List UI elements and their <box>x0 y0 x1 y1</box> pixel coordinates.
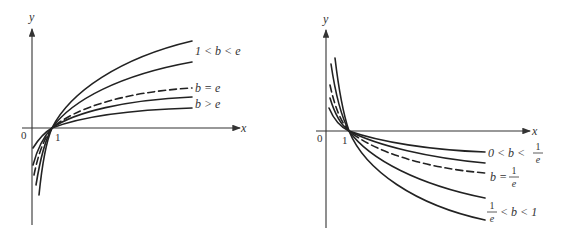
svg-text:1: 1 <box>490 200 495 211</box>
right-label-b-eq-1-over-e: b = 1 e <box>490 165 519 189</box>
svg-text:0 < b <: 0 < b < <box>488 146 525 160</box>
svg-text:1: 1 <box>512 165 517 176</box>
left-x-label: x <box>240 121 247 135</box>
left-origin-label: 0 <box>21 129 27 141</box>
right-label-1-over-e-lt-b-lt-1: 1 e < b < 1 <box>487 200 537 224</box>
right-x-label: x <box>531 124 538 138</box>
svg-text:b =: b = <box>490 170 507 184</box>
right-curve-1 <box>329 108 485 152</box>
svg-text:e: e <box>490 213 495 224</box>
right-tick-one-label: 1 <box>342 134 348 146</box>
svg-text:e: e <box>536 154 541 165</box>
svg-text:< b < 1: < b < 1 <box>500 205 537 219</box>
figure-canvas: y x 0 1 1 < b < e b = e b > e y x 0 1 0 … <box>0 0 562 242</box>
left-y-label: y <box>28 10 35 24</box>
right-curve-5 <box>335 58 485 220</box>
left-tick-one-label: 1 <box>55 131 61 143</box>
right-origin-label: 0 <box>317 132 323 144</box>
svg-text:1: 1 <box>536 141 541 152</box>
svg-text:e: e <box>512 178 517 189</box>
right-panel: y x 0 1 0 < b < 1 e b = 1 e 1 e < b < 1 <box>316 12 543 228</box>
left-label-b-gt-e: b > e <box>195 97 221 111</box>
right-y-label: y <box>322 12 329 26</box>
left-curve-1 <box>39 41 192 195</box>
left-label-1-lt-b-lt-e: 1 < b < e <box>195 44 241 58</box>
left-panel: y x 0 1 1 < b < e b = e b > e <box>21 10 247 225</box>
right-label-0-lt-b-lt-1-over-e: 0 < b < 1 e <box>488 141 543 165</box>
left-label-b-eq-e: b = e <box>195 81 221 95</box>
